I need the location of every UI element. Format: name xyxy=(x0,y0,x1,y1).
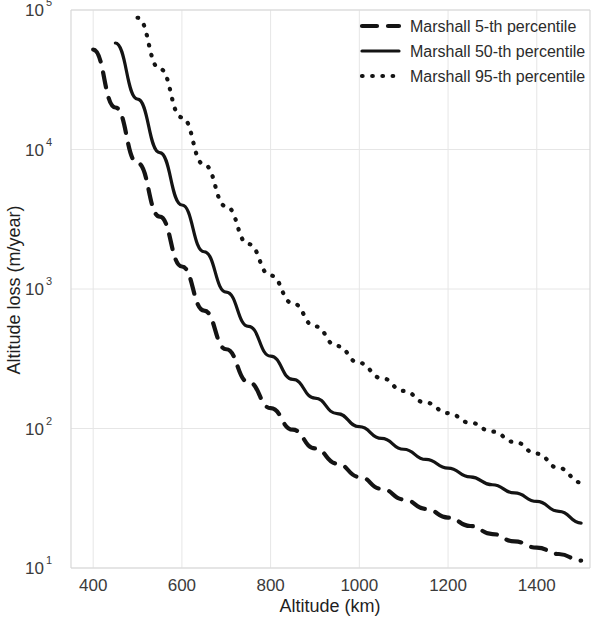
legend-label: Marshall 5-th percentile xyxy=(410,18,576,35)
chart-background xyxy=(0,0,594,619)
x-axis-title: Altitude (km) xyxy=(279,596,380,616)
y-tick-label: 10 xyxy=(25,1,44,20)
y-tick-label: 10 xyxy=(25,420,44,439)
legend-label: Marshall 95-th percentile xyxy=(410,68,585,85)
x-tick-label: 400 xyxy=(79,576,107,595)
x-tick-label: 800 xyxy=(256,576,284,595)
y-tick-exponent: 2 xyxy=(46,415,52,427)
y-tick-exponent: 5 xyxy=(46,0,52,8)
legend-label: Marshall 50-th percentile xyxy=(410,43,585,60)
x-tick-label: 1000 xyxy=(340,576,378,595)
y-axis-title: Altitude loss (m/year) xyxy=(4,205,24,374)
x-tick-label: 1400 xyxy=(518,576,556,595)
x-tick-label: 1200 xyxy=(429,576,467,595)
y-tick-label: 10 xyxy=(25,141,44,160)
y-tick-exponent: 3 xyxy=(46,275,52,287)
y-tick-exponent: 1 xyxy=(46,554,52,566)
y-tick-exponent: 4 xyxy=(46,136,52,148)
chart-figure: 400600800100012001400 101102103104105 Al… xyxy=(0,0,594,619)
x-tick-label: 600 xyxy=(168,576,196,595)
y-tick-label: 10 xyxy=(25,559,44,578)
altitude-loss-log-chart: 400600800100012001400 101102103104105 Al… xyxy=(0,0,594,619)
y-tick-label: 10 xyxy=(25,280,44,299)
